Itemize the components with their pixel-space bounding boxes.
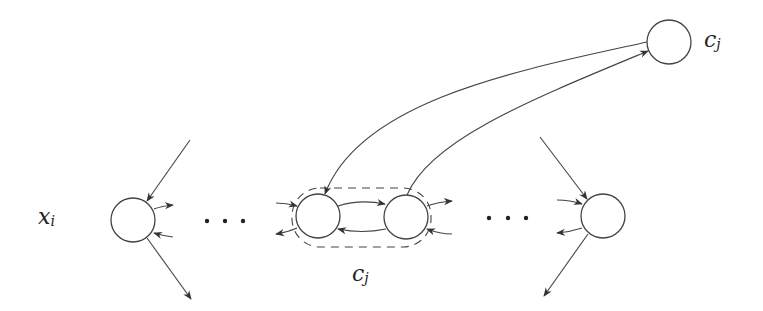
label-cj-top-sub: j: [716, 36, 720, 52]
edge-xi-stub-out: [154, 205, 173, 209]
node-right[interactable]: [581, 194, 625, 238]
node-cj-top[interactable]: [647, 20, 691, 64]
label-cj-top-base: c: [704, 27, 716, 52]
edge-into-b: [427, 229, 452, 234]
edge-into-a: [276, 203, 297, 206]
label-cj-cluster-sub: j: [364, 270, 368, 286]
node-xi[interactable]: [111, 198, 155, 242]
ellipsis-right: [487, 216, 528, 220]
edge-out-right: [544, 234, 588, 296]
label-cj-top: cj: [704, 29, 721, 51]
edge-top-to-a: [325, 42, 647, 194]
edge-out-xi: [147, 238, 191, 299]
edge-b-to-a: [338, 229, 386, 232]
edge-out-b: [427, 201, 452, 206]
edge-out-a: [276, 228, 297, 234]
edge-right-stub-out: [557, 228, 582, 233]
label-xi-sub: i: [50, 213, 54, 229]
ellipsis-left: [205, 219, 245, 223]
node-cluster-a[interactable]: [296, 194, 340, 238]
edge-xi-stub-in: [154, 233, 173, 237]
label-xi: xi: [38, 206, 55, 228]
edge-right-stub-in: [557, 200, 582, 204]
diagram-canvas: [0, 0, 763, 311]
edge-into-xi: [147, 140, 190, 201]
label-cj-cluster: cj: [352, 263, 369, 285]
edge-a-to-b: [338, 202, 385, 206]
node-cluster-b[interactable]: [384, 195, 428, 239]
label-cj-cluster-base: c: [352, 261, 364, 286]
edge-into-right: [540, 137, 587, 199]
label-xi-base: x: [38, 204, 50, 229]
edge-b-to-top: [407, 51, 648, 195]
